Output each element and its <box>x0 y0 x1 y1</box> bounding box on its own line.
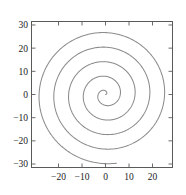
y-tick-label: 0 <box>23 90 28 100</box>
y-tick-label: −30 <box>13 159 28 169</box>
y-tick-label: 20 <box>19 44 29 54</box>
x-tick-label: 10 <box>124 172 134 182</box>
y-tick-label: 30 <box>19 20 29 30</box>
x-tick-label: 20 <box>148 172 158 182</box>
spiral-chart: −20−1001020 −30−20−100102030 <box>0 0 186 195</box>
x-tick-label: −10 <box>75 172 90 182</box>
y-tick-label: −10 <box>13 113 28 123</box>
x-tick-label: 0 <box>103 172 108 182</box>
y-tick-label: 10 <box>19 67 29 77</box>
y-axis-tick-labels: −30−20−100102030 <box>13 20 28 169</box>
plot-background <box>32 22 173 168</box>
y-tick-label: −20 <box>13 136 28 146</box>
x-tick-label: −20 <box>51 172 66 182</box>
figure-container: −20−1001020 −30−20−100102030 <box>0 0 186 195</box>
x-axis-tick-labels: −20−1001020 <box>51 172 157 182</box>
